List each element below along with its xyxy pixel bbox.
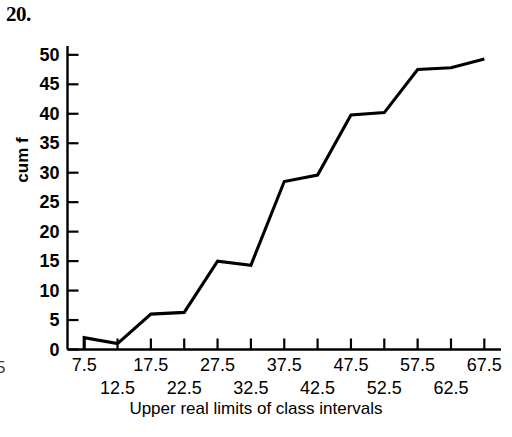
y-tick-label: 0 <box>16 341 60 359</box>
y-tick-label: 5 <box>16 311 60 329</box>
x-tick-label: 52.5 <box>361 379 407 397</box>
x-tick-label: 62.5 <box>428 379 474 397</box>
x-tick-label: 12.5 <box>95 379 141 397</box>
x-tick-label: 67.5 <box>461 356 507 374</box>
cumulative-frequency-chart: 20. 5 cum f Upper real limits of class i… <box>0 0 512 437</box>
x-tick-label: 57.5 <box>395 356 441 374</box>
y-tick-label: 35 <box>16 134 60 152</box>
y-tick-label: 15 <box>16 252 60 270</box>
x-tick-label: 22.5 <box>161 379 207 397</box>
x-tick-label: 32.5 <box>228 379 274 397</box>
y-tick-label: 25 <box>16 193 60 211</box>
y-tick-label: 50 <box>16 46 60 64</box>
y-tick-label: 20 <box>16 223 60 241</box>
ogive-data-line <box>84 59 484 350</box>
x-tick-label: 37.5 <box>261 356 307 374</box>
x-tick-label: 7.5 <box>61 356 107 374</box>
y-tick-label: 10 <box>16 282 60 300</box>
y-tick-label: 30 <box>16 164 60 182</box>
y-tick-label: 40 <box>16 105 60 123</box>
axes <box>68 46 502 350</box>
x-tick-label: 17.5 <box>128 356 174 374</box>
x-tick-label: 47.5 <box>328 356 374 374</box>
y-tick-label: 45 <box>16 75 60 93</box>
x-tick-label: 27.5 <box>195 356 241 374</box>
x-tick-label: 42.5 <box>295 379 341 397</box>
